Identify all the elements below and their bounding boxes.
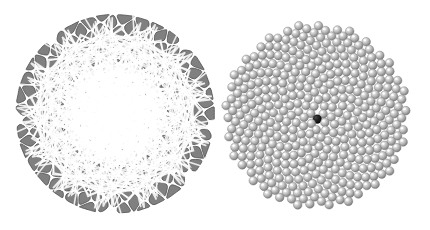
sphere [239, 144, 248, 153]
sphere-highlight [356, 100, 359, 102]
sphere-highlight [368, 99, 371, 101]
sphere [350, 53, 359, 62]
sphere-highlight [370, 63, 373, 65]
sphere-highlight [241, 146, 244, 148]
sphere [376, 51, 385, 60]
sphere [296, 82, 305, 91]
sphere [385, 75, 394, 84]
sphere-highlight [341, 95, 344, 97]
sphere [304, 94, 313, 103]
sphere-highlight [298, 43, 301, 45]
sphere-highlight [262, 61, 265, 63]
phyllotaxis-petal-panel [0, 0, 215, 230]
sphere-highlight [263, 114, 266, 116]
sphere [291, 141, 300, 150]
sphere-highlight [276, 102, 279, 104]
sphere-highlight [264, 79, 267, 81]
sphere [242, 55, 251, 64]
sphere [376, 75, 385, 84]
sphere-highlight [293, 169, 296, 171]
sphere-highlight [251, 178, 254, 180]
sphere [354, 190, 363, 199]
sphere [261, 59, 270, 68]
sphere-highlight [347, 173, 350, 175]
sphere-highlight [259, 106, 262, 108]
sphere-highlight [329, 33, 332, 35]
sphere [272, 69, 281, 78]
sphere [329, 128, 338, 137]
sphere [247, 152, 256, 161]
sphere [317, 197, 326, 206]
sphere-highlight [339, 46, 342, 48]
sphere-highlight [316, 160, 319, 162]
sphere [258, 143, 267, 152]
sphere [377, 67, 386, 76]
sphere-highlight [317, 144, 320, 146]
sphere-highlight [270, 141, 273, 143]
sphere-highlight [268, 52, 271, 54]
sphere-highlight [316, 59, 319, 61]
sphere [273, 166, 282, 175]
sphere-highlight [244, 57, 247, 59]
sphere-highlight [336, 110, 339, 112]
sphere-highlight [330, 194, 333, 196]
sphere-highlight [349, 155, 352, 157]
sphere [299, 122, 308, 131]
sphere-highlight [275, 44, 278, 46]
sphere [337, 127, 346, 136]
sphere-highlight [356, 124, 359, 126]
sphere-highlight [294, 120, 297, 122]
sphere-highlight [313, 71, 316, 73]
sphere-highlight [330, 105, 333, 107]
sphere-highlight [240, 154, 243, 156]
sphere-highlight [316, 23, 319, 25]
sphere-highlight [289, 85, 292, 87]
sphere-highlight [251, 72, 254, 74]
sphere-highlight [247, 65, 250, 67]
sphere-highlight [332, 97, 335, 99]
sphere [359, 72, 368, 81]
sphere-highlight [359, 50, 362, 52]
sphere [365, 45, 374, 54]
sphere-highlight [375, 136, 378, 138]
sphere-highlight [307, 131, 310, 133]
sphere-highlight [336, 70, 339, 72]
sphere [340, 135, 349, 144]
sphere-highlight [277, 176, 280, 178]
sphere-highlight [339, 119, 342, 121]
sphere-highlight [263, 137, 266, 139]
sphere-highlight [316, 81, 319, 83]
sphere-highlight [373, 92, 376, 94]
sphere [284, 143, 293, 152]
sphere-highlight [355, 89, 358, 91]
sphere-group [222, 22, 410, 210]
sphere [362, 181, 371, 190]
sphere-highlight [308, 38, 311, 40]
sphere-highlight [230, 108, 233, 110]
sphere-highlight [402, 88, 405, 90]
sphere-highlight [376, 85, 379, 87]
sphere-highlight [274, 124, 277, 126]
sphere [262, 94, 271, 103]
sphere-highlight [324, 147, 327, 149]
sphere [298, 158, 307, 167]
sphere-highlight [346, 199, 349, 201]
sphere [331, 95, 340, 104]
sphere [351, 61, 360, 70]
sphere [366, 137, 375, 146]
sphere-highlight [341, 152, 344, 154]
sphere-highlight [297, 52, 300, 54]
sphere-highlight [351, 79, 354, 81]
sphere [354, 181, 363, 190]
sphere-highlight [312, 194, 315, 196]
sphere [331, 52, 340, 61]
sphere [351, 69, 360, 78]
sphere-highlight [379, 172, 382, 174]
sphere [357, 147, 366, 156]
sphere [280, 125, 289, 134]
sphere-highlight [351, 147, 354, 149]
sphere-highlight [362, 104, 365, 106]
sphere-highlight [273, 188, 276, 190]
sphere-highlight [243, 75, 246, 77]
sphere [287, 83, 296, 92]
